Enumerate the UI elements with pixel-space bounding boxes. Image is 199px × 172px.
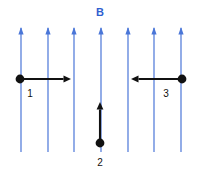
field-line-arrowhead-icon <box>71 27 76 35</box>
particle-dot-1 <box>16 75 25 84</box>
field-line-arrowhead-icon <box>98 27 103 35</box>
velocity-vector-arrowhead-icon-1 <box>64 76 72 83</box>
field-line-3 <box>71 27 76 152</box>
particle-1: 1 <box>16 75 71 99</box>
particle-2: 2 <box>96 102 105 168</box>
field-line-7 <box>178 27 183 152</box>
field-line-2 <box>45 27 50 152</box>
diagram-canvas: B 123 <box>0 0 199 172</box>
particle-dot-3 <box>178 75 187 84</box>
particle-3: 3 <box>131 75 186 99</box>
field-line-5 <box>125 27 130 152</box>
field-line-arrowhead-icon <box>151 27 156 35</box>
magnetic-field-diagram: B 123 <box>0 0 199 172</box>
particle-label-2: 2 <box>97 157 103 168</box>
field-line-1 <box>18 27 23 152</box>
velocity-vector-arrowhead-icon-2 <box>97 102 104 110</box>
field-line-arrowhead-icon <box>125 27 130 35</box>
field-line-arrowhead-icon <box>45 27 50 35</box>
field-line-6 <box>151 27 156 152</box>
particle-label-3: 3 <box>163 88 169 99</box>
field-line-arrowhead-icon <box>178 27 183 35</box>
magnetic-field-label: B <box>96 6 104 18</box>
particle-dot-2 <box>96 139 105 148</box>
velocity-vector-arrowhead-icon-3 <box>131 76 139 83</box>
particle-label-1: 1 <box>27 88 33 99</box>
field-line-arrowhead-icon <box>18 27 23 35</box>
